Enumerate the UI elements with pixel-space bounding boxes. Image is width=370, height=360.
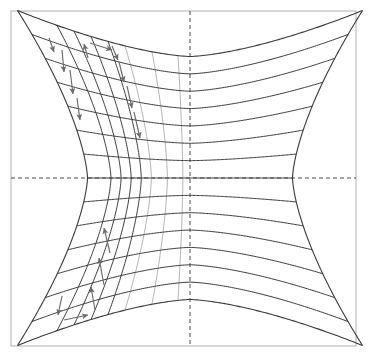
figure-background: [0, 0, 370, 360]
astroid-grid-figure: [0, 0, 370, 360]
figure-root: [0, 0, 370, 360]
